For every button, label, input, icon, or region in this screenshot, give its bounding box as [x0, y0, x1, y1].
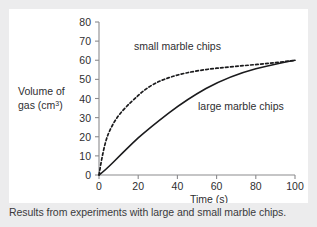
x-axis-title: Time (s)	[190, 193, 228, 203]
y-tick-label: 20	[79, 131, 91, 143]
x-tick-label: 80	[250, 180, 262, 192]
x-axis-ticks	[99, 175, 295, 179]
y-axis-title-line2: gas (cm3)	[18, 99, 63, 111]
y-tick-label: 70	[79, 35, 91, 47]
y-axis-title-line1: Volume of	[18, 85, 65, 97]
y-tick-label: 50	[79, 73, 91, 85]
x-tick-label: 60	[211, 180, 223, 192]
y-tick-label: 60	[79, 54, 91, 66]
series-label-large-marble-chips: large marble chips	[198, 100, 284, 112]
figure-root: 80 70 60 50 40 30 20 10 0 0	[0, 0, 317, 227]
figure-card: 80 70 60 50 40 30 20 10 0 0	[9, 9, 308, 203]
y-axis-ticks	[95, 22, 99, 175]
y-tick-label: 80	[79, 16, 91, 28]
y-tick-label: 0	[85, 169, 91, 181]
series-label-small-marble-chips: small marble chips	[134, 40, 221, 52]
y-tick-label: 10	[79, 150, 91, 162]
series-line-large-marble-chips	[99, 60, 295, 175]
x-tick-label: 40	[172, 180, 184, 192]
y-axis-title-unit-post: )	[59, 99, 63, 111]
y-axis-tick-labels: 80 70 60 50 40 30 20 10 0	[79, 16, 91, 181]
x-tick-label: 100	[286, 180, 304, 192]
series-line-small-marble-chips	[99, 60, 295, 175]
y-tick-label: 40	[79, 93, 91, 105]
figure-caption: Results from experiments with large and …	[9, 206, 308, 218]
x-tick-label: 0	[96, 180, 102, 192]
x-axis-tick-labels: 0 20 40 60 80 100	[96, 180, 304, 192]
y-axis-title: Volume of gas (cm3)	[18, 85, 65, 111]
y-axis-title-unit-pre: gas (cm	[18, 99, 56, 111]
line-chart: 80 70 60 50 40 30 20 10 0 0	[9, 9, 308, 203]
x-tick-label: 20	[132, 180, 144, 192]
y-tick-label: 30	[79, 112, 91, 124]
